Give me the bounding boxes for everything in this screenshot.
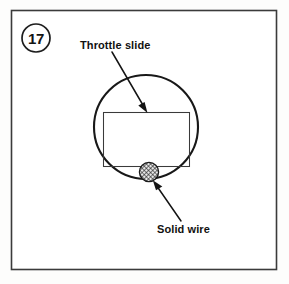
badge-number: 17 — [28, 30, 44, 47]
figure-number-badge: 17 — [22, 24, 50, 52]
figure-canvas: 17 Throttle slide Solid wire — [0, 0, 289, 284]
solid-wire-label: Solid wire — [157, 223, 210, 235]
throttle-slide-label: Throttle slide — [80, 39, 150, 51]
solid-wire-circle — [139, 162, 158, 181]
technical-figure: 17 Throttle slide Solid wire — [0, 0, 289, 284]
